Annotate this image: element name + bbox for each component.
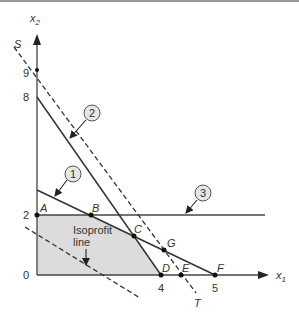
y-tick-0: 0 xyxy=(23,269,29,281)
lp-diagram: x2 x1 9 8 2 0 4 5 S T A B C G D E F 1 2 … xyxy=(0,0,299,324)
label-T: T xyxy=(194,297,202,309)
label-C: C xyxy=(134,223,142,235)
y-tick-9: 9 xyxy=(23,67,29,79)
label-S: S xyxy=(14,38,22,50)
constraint-2-callout: 2 xyxy=(70,105,100,138)
label-D: D xyxy=(162,262,170,274)
label-G: G xyxy=(167,237,176,249)
svg-text:3: 3 xyxy=(200,187,206,199)
y-axis-arrow-icon xyxy=(33,34,41,45)
x-axis-label: x1 xyxy=(275,269,286,284)
label-B: B xyxy=(92,202,99,214)
y-tick-8: 8 xyxy=(23,91,29,103)
point-G xyxy=(162,248,167,253)
y-axis-label: x2 xyxy=(29,12,41,27)
x-tick-5: 5 xyxy=(212,282,218,294)
x-axis-arrow-icon xyxy=(258,271,269,279)
point-y9 xyxy=(35,68,39,72)
label-A: A xyxy=(39,202,47,214)
isoprofit-label-line2: line xyxy=(73,236,90,248)
isoprofit-label-line1: Isoprofit xyxy=(73,224,112,236)
x-tick-4: 4 xyxy=(158,282,164,294)
constraint-3-callout: 3 xyxy=(186,185,211,213)
svg-text:2: 2 xyxy=(89,107,95,119)
point-A xyxy=(35,213,40,218)
label-E: E xyxy=(182,262,190,274)
svg-text:1: 1 xyxy=(70,168,76,180)
label-F: F xyxy=(217,262,225,274)
y-tick-2: 2 xyxy=(23,209,29,221)
constraint-1-callout: 1 xyxy=(55,166,81,196)
